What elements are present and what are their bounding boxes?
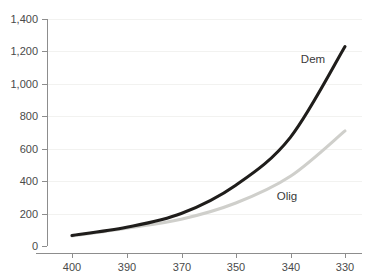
chart-container: 1,400 1,200 1,000 800 600 400 200 0 400 … <box>0 0 380 280</box>
x-tick-label-390: 390 <box>118 261 136 273</box>
x-axis: 400 390 370 350 340 330 <box>36 253 362 273</box>
gridlines <box>47 19 362 214</box>
line-chart: 1,400 1,200 1,000 800 600 400 200 0 400 … <box>0 0 380 280</box>
y-tick-label-200: 200 <box>20 208 38 220</box>
y-tick-label-1000: 1,000 <box>10 78 38 90</box>
x-tick-label-350: 350 <box>227 261 245 273</box>
y-tick-label-600: 600 <box>20 143 38 155</box>
series-line-dem <box>72 47 345 236</box>
y-tick-label-1200: 1,200 <box>10 45 38 57</box>
y-tick-label-1400: 1,400 <box>10 13 38 25</box>
series-line-olig <box>72 131 345 236</box>
x-tick-label-400: 400 <box>63 261 81 273</box>
y-tick-label-800: 800 <box>20 110 38 122</box>
y-axis: 1,400 1,200 1,000 800 600 400 200 0 <box>10 13 47 252</box>
series-lines <box>72 47 345 236</box>
series-label-olig: Olig <box>277 190 297 202</box>
series-label-dem: Dem <box>301 53 325 65</box>
y-tick-label-0: 0 <box>32 240 38 252</box>
x-tick-label-340: 340 <box>282 261 300 273</box>
x-tick-label-330: 330 <box>336 261 354 273</box>
y-tick-label-400: 400 <box>20 175 38 187</box>
x-tick-label-370: 370 <box>173 261 191 273</box>
